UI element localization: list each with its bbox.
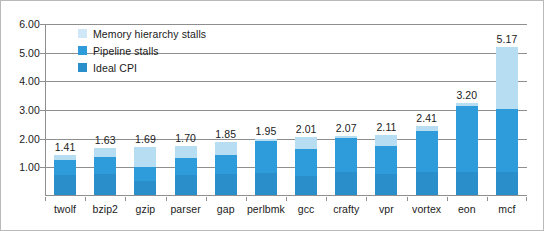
chart-figure: 1.002.003.004.005.006.00 1.411.631.691.7… bbox=[0, 0, 544, 231]
x-axis-label-parser: parser bbox=[166, 197, 206, 219]
bar-value-label-crafty: 2.07 bbox=[336, 122, 357, 134]
legend-swatch-ideal-cpi bbox=[78, 63, 87, 72]
bar-segment-pipeline-stalls-vpr bbox=[375, 146, 397, 174]
legend-swatch-pipeline-stalls bbox=[78, 46, 87, 55]
bar-vpr[interactable] bbox=[375, 135, 397, 195]
bar-segment-memory-hierarchy-stalls-gzip bbox=[134, 147, 156, 168]
bar-segment-ideal-cpi-perlbmk bbox=[255, 173, 277, 195]
x-axis-label-gzip: gzip bbox=[125, 197, 165, 219]
x-axis-label-vortex: vortex bbox=[407, 197, 447, 219]
bar-segment-memory-hierarchy-stalls-bzip2 bbox=[94, 148, 116, 157]
bar-segment-pipeline-stalls-eon bbox=[456, 106, 478, 172]
y-axis-tick-label: 4.00 bbox=[19, 75, 40, 87]
legend-label-ideal-cpi: Ideal CPI bbox=[93, 62, 137, 74]
bar-segment-pipeline-stalls-bzip2 bbox=[94, 157, 116, 174]
x-tick-mark bbox=[125, 197, 126, 201]
bar-gcc[interactable] bbox=[295, 137, 317, 195]
bar-segment-memory-hierarchy-stalls-vpr bbox=[375, 135, 397, 147]
y-axis-tick-label: 1.00 bbox=[19, 161, 40, 173]
legend-item-ideal-cpi: Ideal CPI bbox=[78, 60, 206, 75]
x-axis-label-mcf: mcf bbox=[487, 197, 527, 219]
bar-perlbmk[interactable] bbox=[255, 139, 277, 195]
x-tick-mark bbox=[286, 197, 287, 201]
bar-segment-ideal-cpi-mcf bbox=[496, 172, 518, 195]
bar-segment-ideal-cpi-vpr bbox=[375, 174, 397, 195]
bar-segment-memory-hierarchy-stalls-gap bbox=[215, 142, 237, 155]
x-axis-label-crafty: crafty bbox=[326, 197, 366, 219]
bar-segment-ideal-cpi-gcc bbox=[295, 176, 317, 195]
y-axis-tick-label: 3.00 bbox=[19, 104, 40, 116]
bar-slot-gap: 1.85 bbox=[206, 24, 246, 195]
bar-segment-pipeline-stalls-gzip bbox=[134, 167, 156, 180]
bar-slot-gcc: 2.01 bbox=[286, 24, 326, 195]
x-axis-label-gcc: gcc bbox=[286, 197, 326, 219]
x-tick-mark bbox=[206, 197, 207, 201]
bar-segment-ideal-cpi-bzip2 bbox=[94, 174, 116, 195]
bar-value-label-perlbmk: 1.95 bbox=[256, 125, 277, 137]
bar-value-label-vortex: 2.41 bbox=[416, 112, 437, 124]
x-axis-label-gap: gap bbox=[206, 197, 246, 219]
bar-segment-memory-hierarchy-stalls-gcc bbox=[295, 137, 317, 148]
legend-item-pipeline-stalls: Pipeline stalls bbox=[78, 43, 206, 58]
bar-segment-pipeline-stalls-vortex bbox=[416, 131, 438, 173]
x-axis-labels: twolfbzip2gzipparsergapperlbmkgcccraftyv… bbox=[45, 197, 527, 219]
bar-slot-perlbmk: 1.95 bbox=[246, 24, 286, 195]
bar-segment-memory-hierarchy-stalls-parser bbox=[175, 146, 197, 157]
bar-crafty[interactable] bbox=[335, 136, 357, 195]
x-tick-mark bbox=[366, 197, 367, 201]
legend-label-memory-hierarchy-stalls: Memory hierarchy stalls bbox=[93, 28, 206, 40]
x-tick-mark bbox=[45, 197, 46, 201]
bar-parser[interactable] bbox=[175, 146, 197, 195]
bar-value-label-gap: 1.85 bbox=[215, 128, 236, 140]
bar-gzip[interactable] bbox=[134, 147, 156, 195]
bar-slot-vpr: 2.11 bbox=[366, 24, 406, 195]
x-axis-baseline bbox=[45, 195, 527, 196]
bar-value-label-parser: 1.70 bbox=[175, 132, 196, 144]
bar-segment-ideal-cpi-twolf bbox=[54, 175, 76, 195]
bar-value-label-gcc: 2.01 bbox=[296, 123, 317, 135]
bar-vortex[interactable] bbox=[416, 126, 438, 195]
legend-swatch-memory-hierarchy-stalls bbox=[78, 29, 87, 38]
bar-mcf[interactable] bbox=[496, 47, 518, 195]
x-axis-label-perlbmk: perlbmk bbox=[246, 197, 286, 219]
y-axis-tick-label: 5.00 bbox=[19, 47, 40, 59]
x-tick-mark bbox=[85, 197, 86, 201]
bar-segment-ideal-cpi-gap bbox=[215, 174, 237, 195]
x-tick-mark bbox=[246, 197, 247, 201]
bar-segment-ideal-cpi-vortex bbox=[416, 172, 438, 195]
bar-eon[interactable] bbox=[456, 103, 478, 195]
bar-segment-pipeline-stalls-gap bbox=[215, 155, 237, 174]
bar-segment-pipeline-stalls-parser bbox=[175, 158, 197, 175]
bar-slot-vortex: 2.41 bbox=[407, 24, 447, 195]
bar-segment-pipeline-stalls-twolf bbox=[54, 160, 76, 175]
bar-segment-pipeline-stalls-gcc bbox=[295, 149, 317, 176]
bar-segment-ideal-cpi-eon bbox=[456, 172, 478, 196]
legend-label-pipeline-stalls: Pipeline stalls bbox=[93, 45, 159, 57]
y-axis-tick-label: 6.00 bbox=[19, 18, 40, 30]
bar-segment-pipeline-stalls-perlbmk bbox=[255, 141, 277, 172]
x-axis-label-eon: eon bbox=[447, 197, 487, 219]
y-axis-tick-label: 2.00 bbox=[19, 133, 40, 145]
bar-value-label-mcf: 5.17 bbox=[497, 33, 518, 45]
x-axis-label-bzip2: bzip2 bbox=[85, 197, 125, 219]
legend-item-memory-hierarchy-stalls: Memory hierarchy stalls bbox=[78, 26, 206, 41]
bar-value-label-bzip2: 1.63 bbox=[95, 134, 116, 146]
bar-twolf[interactable] bbox=[54, 155, 76, 195]
x-tick-mark bbox=[166, 197, 167, 201]
bar-value-label-twolf: 1.41 bbox=[55, 141, 76, 153]
bar-gap[interactable] bbox=[215, 142, 237, 195]
bar-segment-pipeline-stalls-mcf bbox=[496, 109, 518, 172]
chart-legend: Memory hierarchy stalls Pipeline stalls … bbox=[78, 26, 206, 77]
bar-slot-crafty: 2.07 bbox=[326, 24, 366, 195]
bar-segment-ideal-cpi-parser bbox=[175, 175, 197, 195]
bar-value-label-eon: 3.20 bbox=[456, 89, 477, 101]
bar-segment-ideal-cpi-gzip bbox=[134, 181, 156, 195]
x-tick-mark bbox=[526, 197, 527, 201]
x-tick-mark bbox=[407, 197, 408, 201]
bar-segment-ideal-cpi-crafty bbox=[335, 172, 357, 195]
bar-segment-memory-hierarchy-stalls-mcf bbox=[496, 47, 518, 109]
bar-value-label-vpr: 2.11 bbox=[376, 121, 396, 133]
x-tick-mark bbox=[326, 197, 327, 201]
bar-segment-pipeline-stalls-crafty bbox=[335, 138, 357, 172]
bar-bzip2[interactable] bbox=[94, 148, 116, 195]
